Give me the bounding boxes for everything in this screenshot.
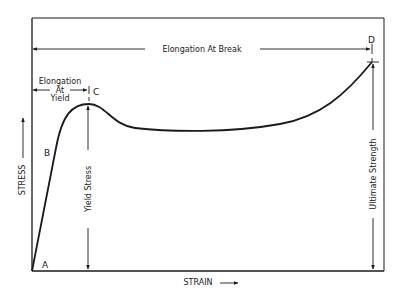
elongation-at-break-label: Elongation At Break — [162, 45, 242, 54]
stress-strain-diagram: Elongation At Break Elongation At Yield … — [0, 0, 406, 296]
yield-stress-annotation: Yield Stress — [84, 106, 93, 269]
yield-stress-label: Yield Stress — [84, 166, 93, 213]
elongation-at-break-annotation: Elongation At Break — [33, 44, 372, 62]
x-axis-label: STRAIN — [183, 278, 212, 287]
ultimate-strength-annotation: Ultimate Strength — [367, 62, 379, 269]
svg-text:Yield: Yield — [49, 94, 69, 103]
svg-text:Elongation: Elongation — [39, 77, 82, 86]
elongation-at-yield-annotation: Elongation At Yield — [33, 77, 89, 103]
point-b-label: B — [44, 148, 50, 158]
point-a-label: A — [42, 260, 49, 270]
point-d-label: D — [368, 35, 375, 45]
x-axis-label-group: STRAIN — [183, 278, 238, 287]
plot-frame — [32, 18, 384, 271]
point-c-label: C — [93, 87, 99, 97]
y-axis-label-group: STRESS — [18, 118, 27, 195]
y-axis-label: STRESS — [18, 165, 27, 196]
stress-strain-curve — [32, 62, 372, 271]
ultimate-strength-label: Ultimate Strength — [369, 138, 378, 209]
